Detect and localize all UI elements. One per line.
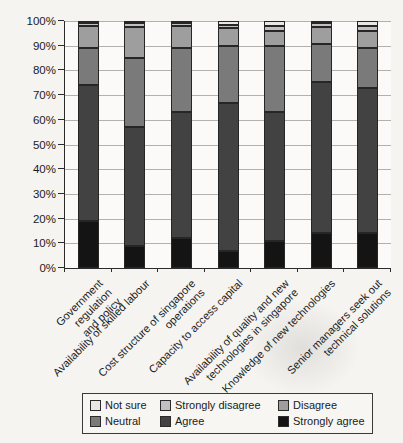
bar-segment-not-sure: [78, 21, 99, 23]
legend-item-disagree: Disagree: [278, 399, 366, 411]
y-axis-label: 10%: [0, 236, 56, 250]
x-axis-tick: [297, 268, 298, 272]
y-axis-tick: [58, 218, 64, 219]
legend-swatch-not-sure: [90, 400, 101, 411]
y-axis-tick: [58, 242, 64, 243]
legend-swatch-neutral: [90, 416, 101, 427]
bar-segment-strongly-disagree: [218, 25, 239, 29]
stacked-bar-chart: Not sureStrongly disagreeDisagreeNeutral…: [0, 0, 403, 443]
y-axis-label: 100%: [0, 14, 56, 28]
bar-segment-strongly-disagree: [357, 26, 378, 31]
legend-label: Agree: [175, 415, 204, 427]
bar-segment-agree: [218, 103, 239, 251]
bar-segment-strongly-agree: [264, 241, 285, 268]
y-axis-label: 60%: [0, 113, 56, 127]
bar: [78, 21, 99, 268]
y-axis-tick: [58, 119, 64, 120]
bar-segment-agree: [171, 112, 192, 238]
legend-item-neutral: Neutral: [90, 415, 154, 427]
bar-segment-strongly-disagree: [124, 23, 145, 27]
bar-segment-not-sure: [124, 21, 145, 23]
bar-segment-strongly-disagree: [311, 23, 332, 27]
bar-segment-disagree: [171, 26, 192, 48]
legend-item-agree: Agree: [160, 415, 272, 427]
bar-segment-strongly-agree: [357, 233, 378, 268]
bar-segment-strongly-disagree: [171, 23, 192, 25]
legend-swatch-strongly-agree: [278, 416, 289, 427]
x-axis-tick: [204, 268, 205, 272]
legend-item-strongly-agree: Strongly agree: [278, 415, 366, 427]
legend-label: Strongly agree: [293, 415, 365, 427]
bar-segment-disagree: [78, 26, 99, 48]
y-axis-label: 90%: [0, 39, 56, 53]
bar: [311, 21, 332, 268]
y-axis-label: 0%: [0, 261, 56, 275]
y-axis-tick: [58, 45, 64, 46]
bar-segment-neutral: [311, 44, 332, 81]
bar-segment-strongly-agree: [171, 238, 192, 268]
x-axis-tick: [343, 268, 344, 272]
y-axis-tick: [58, 94, 64, 95]
legend-swatch-agree: [160, 416, 171, 427]
bar: [124, 21, 145, 268]
bar-segment-disagree: [311, 27, 332, 44]
bar-segment-not-sure: [264, 21, 285, 26]
x-axis-tick: [250, 268, 251, 272]
x-axis-tick: [64, 268, 65, 272]
bar-segment-not-sure: [171, 21, 192, 23]
bar-segment-strongly-disagree: [78, 23, 99, 25]
bar: [218, 21, 239, 268]
legend-label: Disagree: [293, 399, 337, 411]
bar-segment-neutral: [264, 46, 285, 113]
bar-segment-neutral: [357, 48, 378, 88]
x-axis-tick: [157, 268, 158, 272]
bar-segment-disagree: [357, 31, 378, 48]
bar-segment-strongly-agree: [78, 221, 99, 268]
bar-segment-not-sure: [311, 21, 332, 23]
y-axis-label: 40%: [0, 162, 56, 176]
y-axis-label: 70%: [0, 88, 56, 102]
category-label: Senior managers seek out technical solut…: [285, 277, 394, 386]
legend-label: Neutral: [105, 415, 140, 427]
bar: [264, 21, 285, 268]
bar-segment-neutral: [78, 48, 99, 85]
bar-segment-agree: [124, 127, 145, 246]
bar-segment-not-sure: [218, 21, 239, 25]
y-axis-label: 20%: [0, 212, 56, 226]
y-axis-tick: [58, 69, 64, 70]
legend-swatch-disagree: [278, 400, 289, 411]
bar-segment-disagree: [264, 31, 285, 46]
legend-label: Not sure: [105, 399, 147, 411]
legend: Not sureStrongly disagreeDisagreeNeutral…: [82, 393, 373, 434]
bar-segment-agree: [311, 82, 332, 234]
y-axis-label: 50%: [0, 138, 56, 152]
bar-segment-strongly-agree: [311, 233, 332, 268]
y-axis-label: 80%: [0, 63, 56, 77]
bar-segment-disagree: [124, 27, 145, 58]
bar-segment-agree: [357, 88, 378, 234]
bar-segment-disagree: [218, 28, 239, 45]
legend-label: Strongly disagree: [175, 399, 261, 411]
y-axis-label: 30%: [0, 187, 56, 201]
bar-segment-agree: [264, 112, 285, 240]
legend-swatch-strongly-disagree: [160, 400, 171, 411]
bar-segment-neutral: [124, 58, 145, 127]
legend-item-not-sure: Not sure: [90, 399, 154, 411]
bar-segment-neutral: [171, 48, 192, 112]
bar-segment-strongly-agree: [124, 246, 145, 268]
bar: [171, 21, 192, 268]
x-axis-tick: [111, 268, 112, 272]
bar: [357, 21, 378, 268]
y-axis-tick: [58, 144, 64, 145]
bar-segment-strongly-agree: [218, 251, 239, 268]
y-axis-tick: [58, 20, 64, 21]
bar-segment-agree: [78, 85, 99, 221]
bar-segment-strongly-disagree: [264, 26, 285, 31]
legend-item-strongly-disagree: Strongly disagree: [160, 399, 272, 411]
x-axis-tick: [390, 268, 391, 272]
y-axis-tick: [58, 193, 64, 194]
bar-segment-not-sure: [357, 21, 378, 26]
bar-segment-neutral: [218, 46, 239, 103]
y-axis-tick: [58, 168, 64, 169]
plot-area: [64, 21, 391, 269]
